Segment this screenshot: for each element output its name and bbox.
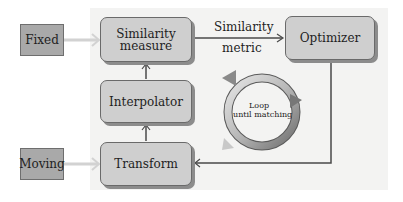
- similarity-measure-box: Similarity measure: [100, 17, 192, 62]
- transform-box: Transform: [100, 142, 192, 186]
- similarity-metric-label-line2: metric: [222, 41, 262, 55]
- interpolator-box: Interpolator: [100, 80, 192, 123]
- fixed-to-similarity-arrow: [64, 34, 99, 46]
- loop-label-line1: Loop: [249, 101, 269, 110]
- fixed-label: Fixed: [25, 33, 59, 47]
- transform-to-interpolator-arrow: [142, 125, 150, 141]
- loop-label-line2: until matching: [233, 110, 292, 119]
- similarity-measure-label-line1: Similarity: [116, 28, 175, 40]
- optimizer-box: Optimizer: [285, 16, 375, 60]
- optimizer-label: Optimizer: [300, 32, 361, 44]
- moving-label: Moving: [19, 157, 65, 171]
- transform-label: Transform: [114, 158, 178, 170]
- interpolator-to-similarity-arrow: [142, 64, 150, 79]
- fixed-image-box: Fixed: [20, 24, 64, 56]
- similarity-measure-label-line2: measure: [120, 40, 172, 52]
- interpolator-label: Interpolator: [109, 96, 183, 108]
- moving-image-box: Moving: [20, 148, 64, 180]
- similarity-metric-label-line1: Similarity: [214, 20, 273, 34]
- moving-to-transform-arrow: [64, 158, 99, 170]
